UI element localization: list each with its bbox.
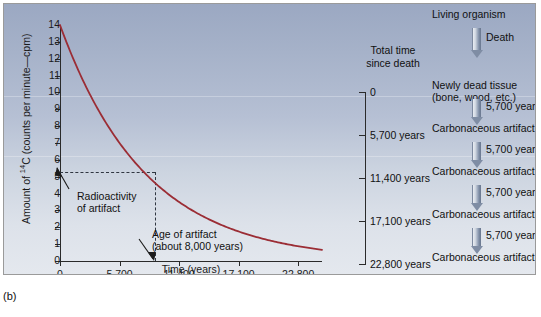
y-tick-label: 4 bbox=[30, 188, 60, 199]
figure-label: (b) bbox=[3, 290, 16, 302]
y-tick-label: 11 bbox=[30, 70, 60, 81]
annotation-radioactivity: Radioactivity of artifact bbox=[77, 190, 137, 214]
decay-flowchart: Living organismNewly dead tissue(bone, w… bbox=[432, 4, 536, 275]
flow-node: Living organism bbox=[432, 8, 506, 20]
flow-node: Carbonaceous artifact bbox=[432, 251, 535, 263]
down-arrow-icon bbox=[470, 185, 483, 211]
figure-panel: Amount of 14C (counts per minute—cpm) 01… bbox=[3, 3, 536, 275]
annotation-age: Age of artifact (about 8,000 years) bbox=[152, 228, 243, 252]
y-tick-label: 5 bbox=[30, 171, 60, 182]
time-label: 22,800 years bbox=[370, 258, 431, 270]
flow-node-line1: Carbonaceous artifact bbox=[432, 165, 535, 177]
y-tick-label: 6 bbox=[30, 154, 60, 165]
decay-plot: Amount of 14C (counts per minute—cpm) 01… bbox=[4, 4, 344, 275]
flow-node-line1: Newly dead tissue bbox=[432, 79, 517, 91]
down-arrow-icon bbox=[470, 142, 483, 168]
y-tick-label: 10 bbox=[30, 86, 60, 97]
total-time-title-line2: since death bbox=[344, 57, 442, 70]
arrow-label: Death bbox=[486, 31, 514, 43]
flow-node-line1: Carbonaceous artifact bbox=[432, 251, 535, 263]
time-bracket-tick bbox=[359, 264, 366, 265]
y-tick-label: 1 bbox=[30, 238, 60, 249]
annotation-age-line1: Age of artifact bbox=[152, 228, 243, 240]
y-tick-label: 12 bbox=[30, 53, 60, 64]
y-tick-label: 3 bbox=[30, 204, 60, 215]
annotation-radioactivity-line2: of artifact bbox=[77, 202, 137, 214]
arrow-label: 5,700 years bbox=[486, 186, 536, 198]
y-tick-label: 7 bbox=[30, 137, 60, 148]
time-bracket-tick bbox=[359, 178, 366, 179]
arrow-label: 5,700 years bbox=[486, 100, 536, 112]
time-bracket-tick bbox=[359, 221, 366, 222]
arrow-label: 5,700 years bbox=[486, 229, 536, 241]
flow-node-line1: Carbonaceous artifact bbox=[432, 208, 535, 220]
time-label: 5,700 years bbox=[370, 129, 425, 141]
down-arrow-icon bbox=[470, 99, 483, 125]
total-time-column: Total time since death 05,700 years11,40… bbox=[344, 4, 444, 275]
flow-node: Carbonaceous artifact bbox=[432, 165, 535, 177]
flow-node-line1: Carbonaceous artifact bbox=[432, 122, 535, 134]
time-label: 0 bbox=[370, 86, 376, 98]
down-arrow-icon bbox=[470, 28, 483, 58]
y-tick-label: 2 bbox=[30, 221, 60, 232]
y-tick-label: 14 bbox=[30, 19, 60, 30]
time-label: 17,100 years bbox=[370, 215, 431, 227]
total-time-title-line1: Total time bbox=[344, 44, 442, 57]
y-tick-label: 13 bbox=[30, 36, 60, 47]
y-tick-label: 9 bbox=[30, 103, 60, 114]
x-axis-title: Time (years) bbox=[60, 263, 322, 275]
flow-node: Carbonaceous artifact bbox=[432, 122, 535, 134]
flow-node-line1: Living organism bbox=[432, 8, 506, 20]
time-bracket-tick bbox=[359, 135, 366, 136]
total-time-title: Total time since death bbox=[344, 44, 442, 69]
arrow-label: 5,700 years bbox=[486, 143, 536, 155]
time-label: 11,400 years bbox=[370, 172, 430, 184]
y-tick-label: 0 bbox=[30, 255, 60, 266]
y-axis-title-superscript: 14 bbox=[18, 165, 27, 173]
plot-axes: 01234567891011121314 05,70011,40017,1002… bbox=[60, 25, 322, 261]
carbon-14-dating-figure: Amount of 14C (counts per minute—cpm) 01… bbox=[0, 0, 541, 317]
annotation-radioactivity-line1: Radioactivity bbox=[77, 190, 137, 202]
annotation-age-line2: (about 8,000 years) bbox=[152, 240, 243, 252]
time-bracket-tick bbox=[359, 92, 366, 93]
down-arrow-icon bbox=[470, 228, 483, 254]
flow-node: Carbonaceous artifact bbox=[432, 208, 535, 220]
y-tick-label: 8 bbox=[30, 120, 60, 131]
